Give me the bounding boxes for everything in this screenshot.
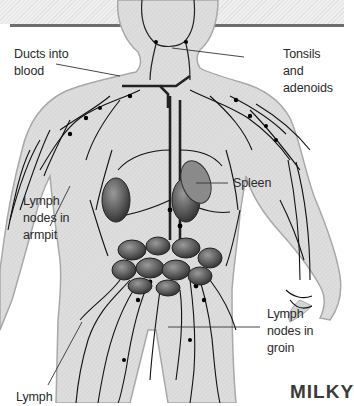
label-lymph-nodes-armpit: Lymph nodes in armpit: [23, 193, 69, 244]
label-tonsils-and-adenoids: Tonsils and adenoids: [283, 46, 344, 97]
label-spleen: Spleen: [233, 175, 271, 192]
label-lymph-nodes-groin: Lymph nodes in groin: [267, 306, 313, 357]
label-ducts-into-blood: Ducts into blood: [14, 46, 69, 80]
watermark-text: MILKY: [290, 381, 354, 403]
label-lymph: Lymph: [16, 389, 53, 406]
